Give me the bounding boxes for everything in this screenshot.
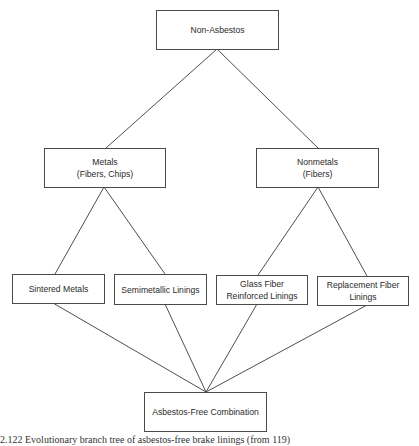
node-sublabel: (Fibers) [303,168,333,180]
node-glass-fiber-reinforced-linings: Glass Fiber Reinforced Linings [216,275,308,305]
node-label: Metals [92,156,117,168]
node-label: Semimetallic Linings [121,284,199,296]
edge-nonasbestos-nonmetals [217,49,318,148]
node-label: Replacement Fiber [327,279,400,291]
node-sintered-metals: Sintered Metals [12,274,105,304]
figure-caption: 2.122 Evolutionary branch tree of asbest… [0,434,419,446]
node-label: Asbestos-Free Combination [152,406,259,418]
edge-sintered-combination [53,303,206,392]
edge-nonasbestos-metals [106,49,217,148]
node-label: Nonmetals [297,156,338,168]
node-non-asbestos: Non-Asbestos [156,10,279,50]
node-asbestos-free-combination: Asbestos-Free Combination [144,392,267,432]
edge-replacement-combination [206,305,367,392]
node-semimetallic-linings: Semimetallic Linings [114,274,207,305]
node-label: Sintered Metals [29,283,89,295]
node-sublabel: Reinforced Linings [226,290,297,302]
edge-metals-semimetallic [104,187,165,274]
node-label: Glass Fiber [240,278,284,290]
node-label: Non-Asbestos [191,24,245,36]
edge-semimetallic-combination [165,304,206,392]
node-metals: Metals (Fibers, Chips) [44,148,166,188]
node-sublabel: (Fibers, Chips) [77,168,133,180]
edge-glass-combination [206,304,257,392]
edge-nonmetals-glass [258,187,318,275]
node-sublabel: Linings [349,291,376,303]
edge-metals-sintered [55,187,104,274]
edge-nonmetals-replacement [318,187,367,276]
node-nonmetals: Nonmetals (Fibers) [256,148,379,188]
node-replacement-fiber-linings: Replacement Fiber Linings [317,276,409,306]
